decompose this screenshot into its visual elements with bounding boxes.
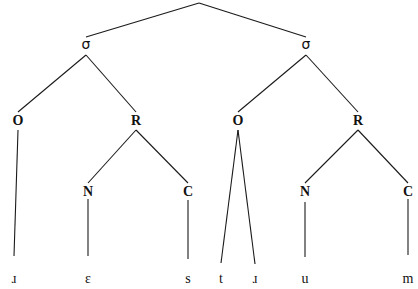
segment-leaf: m xyxy=(403,271,414,286)
segment-leaf: u xyxy=(302,271,309,286)
onset-node: O xyxy=(13,113,24,128)
edge-o2-l5 xyxy=(238,130,255,264)
edge-r1-n1 xyxy=(88,130,136,183)
edge-root-s2 xyxy=(199,3,306,37)
tree-edges xyxy=(14,3,408,264)
rhyme-node: R xyxy=(353,113,364,128)
edge-r2-c2 xyxy=(358,130,408,183)
coda-node: C xyxy=(403,184,413,199)
edge-s1-o1 xyxy=(18,55,86,112)
edge-s2-o2 xyxy=(238,55,306,112)
edge-o1-l1 xyxy=(14,130,18,256)
syllable-tree-diagram: σσORNCORNCɹɛstɹum xyxy=(0,0,418,289)
segment-leaf: ɹ xyxy=(253,271,258,286)
edge-r1-c1 xyxy=(136,130,188,183)
edge-s1-r1 xyxy=(86,55,136,112)
edge-o2-l4 xyxy=(221,130,238,263)
nucleus-node: N xyxy=(83,184,93,199)
edge-r2-n2 xyxy=(305,130,358,183)
segment-leaf: s xyxy=(185,271,190,286)
segment-leaf: t xyxy=(219,271,223,286)
tree-labels: σσORNCORNCɹɛstɹum xyxy=(12,36,414,286)
nucleus-node: N xyxy=(300,184,310,199)
syllable-node: σ xyxy=(302,36,311,52)
edge-s2-r2 xyxy=(306,55,358,112)
segment-leaf: ɛ xyxy=(85,271,91,286)
segment-leaf: ɹ xyxy=(12,271,17,286)
onset-node: O xyxy=(233,113,244,128)
rhyme-node: R xyxy=(131,113,142,128)
coda-node: C xyxy=(183,184,193,199)
edge-root-s1 xyxy=(86,3,199,37)
syllable-node: σ xyxy=(82,36,91,52)
